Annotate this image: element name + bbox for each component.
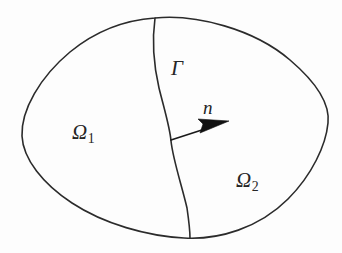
figure-canvas (0, 0, 342, 253)
domain-boundary-path (22, 17, 328, 238)
normal-arrow-head (198, 119, 229, 133)
label-gamma-symbol: Γ (171, 56, 183, 80)
label-omega-1: Ω1 (72, 122, 95, 146)
label-omega-2-subscript: 2 (252, 179, 259, 194)
interface-curve-path (153, 18, 190, 238)
label-gamma: Γ (171, 58, 183, 79)
label-omega-1-subscript: 1 (88, 131, 95, 146)
label-omega-1-symbol: Ω (72, 120, 87, 144)
label-normal-vector-symbol: n (203, 97, 213, 118)
label-omega-2: Ω2 (236, 170, 259, 194)
domain-decomposition-figure: Ω1 Ω2 Γ n (0, 0, 342, 253)
label-omega-2-symbol: Ω (236, 168, 251, 192)
label-normal-vector: n (203, 98, 213, 117)
